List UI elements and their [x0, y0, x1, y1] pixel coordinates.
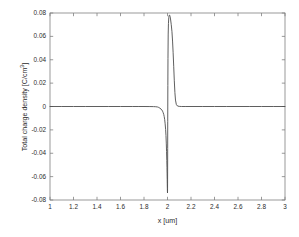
x-tick-label: 1.6	[116, 204, 125, 210]
y-tick-label: -0.06	[0, 173, 46, 179]
x-tick-label: 2.6	[234, 204, 243, 210]
y-tick-label: 0.08	[0, 10, 46, 16]
x-tick-label: 1	[48, 204, 52, 210]
y-axis-label: Total charge density [C/cm3]	[22, 62, 29, 150]
y-axis-label-text: Total charge density [C/cm	[21, 67, 29, 151]
x-tick-label: 2.4	[210, 204, 219, 210]
x-axis-label: x [um]	[50, 218, 285, 225]
x-tick-label: 2.8	[257, 204, 266, 210]
y-tick-label: -0.08	[0, 197, 46, 203]
y-tick-label: 0.06	[0, 33, 46, 39]
x-tick-label: 3	[283, 204, 287, 210]
x-tick-label: 1.8	[140, 204, 149, 210]
x-tick-label: 2.2	[187, 204, 196, 210]
chart-figure: 0.080.060.040.020-0.02-0.04-0.06-0.08 11…	[0, 0, 299, 237]
x-tick-label: 1.2	[69, 204, 78, 210]
y-axis-label-tail: ]	[21, 62, 29, 64]
x-tick-label: 1.4	[93, 204, 102, 210]
x-tick-label: 2	[166, 204, 170, 210]
